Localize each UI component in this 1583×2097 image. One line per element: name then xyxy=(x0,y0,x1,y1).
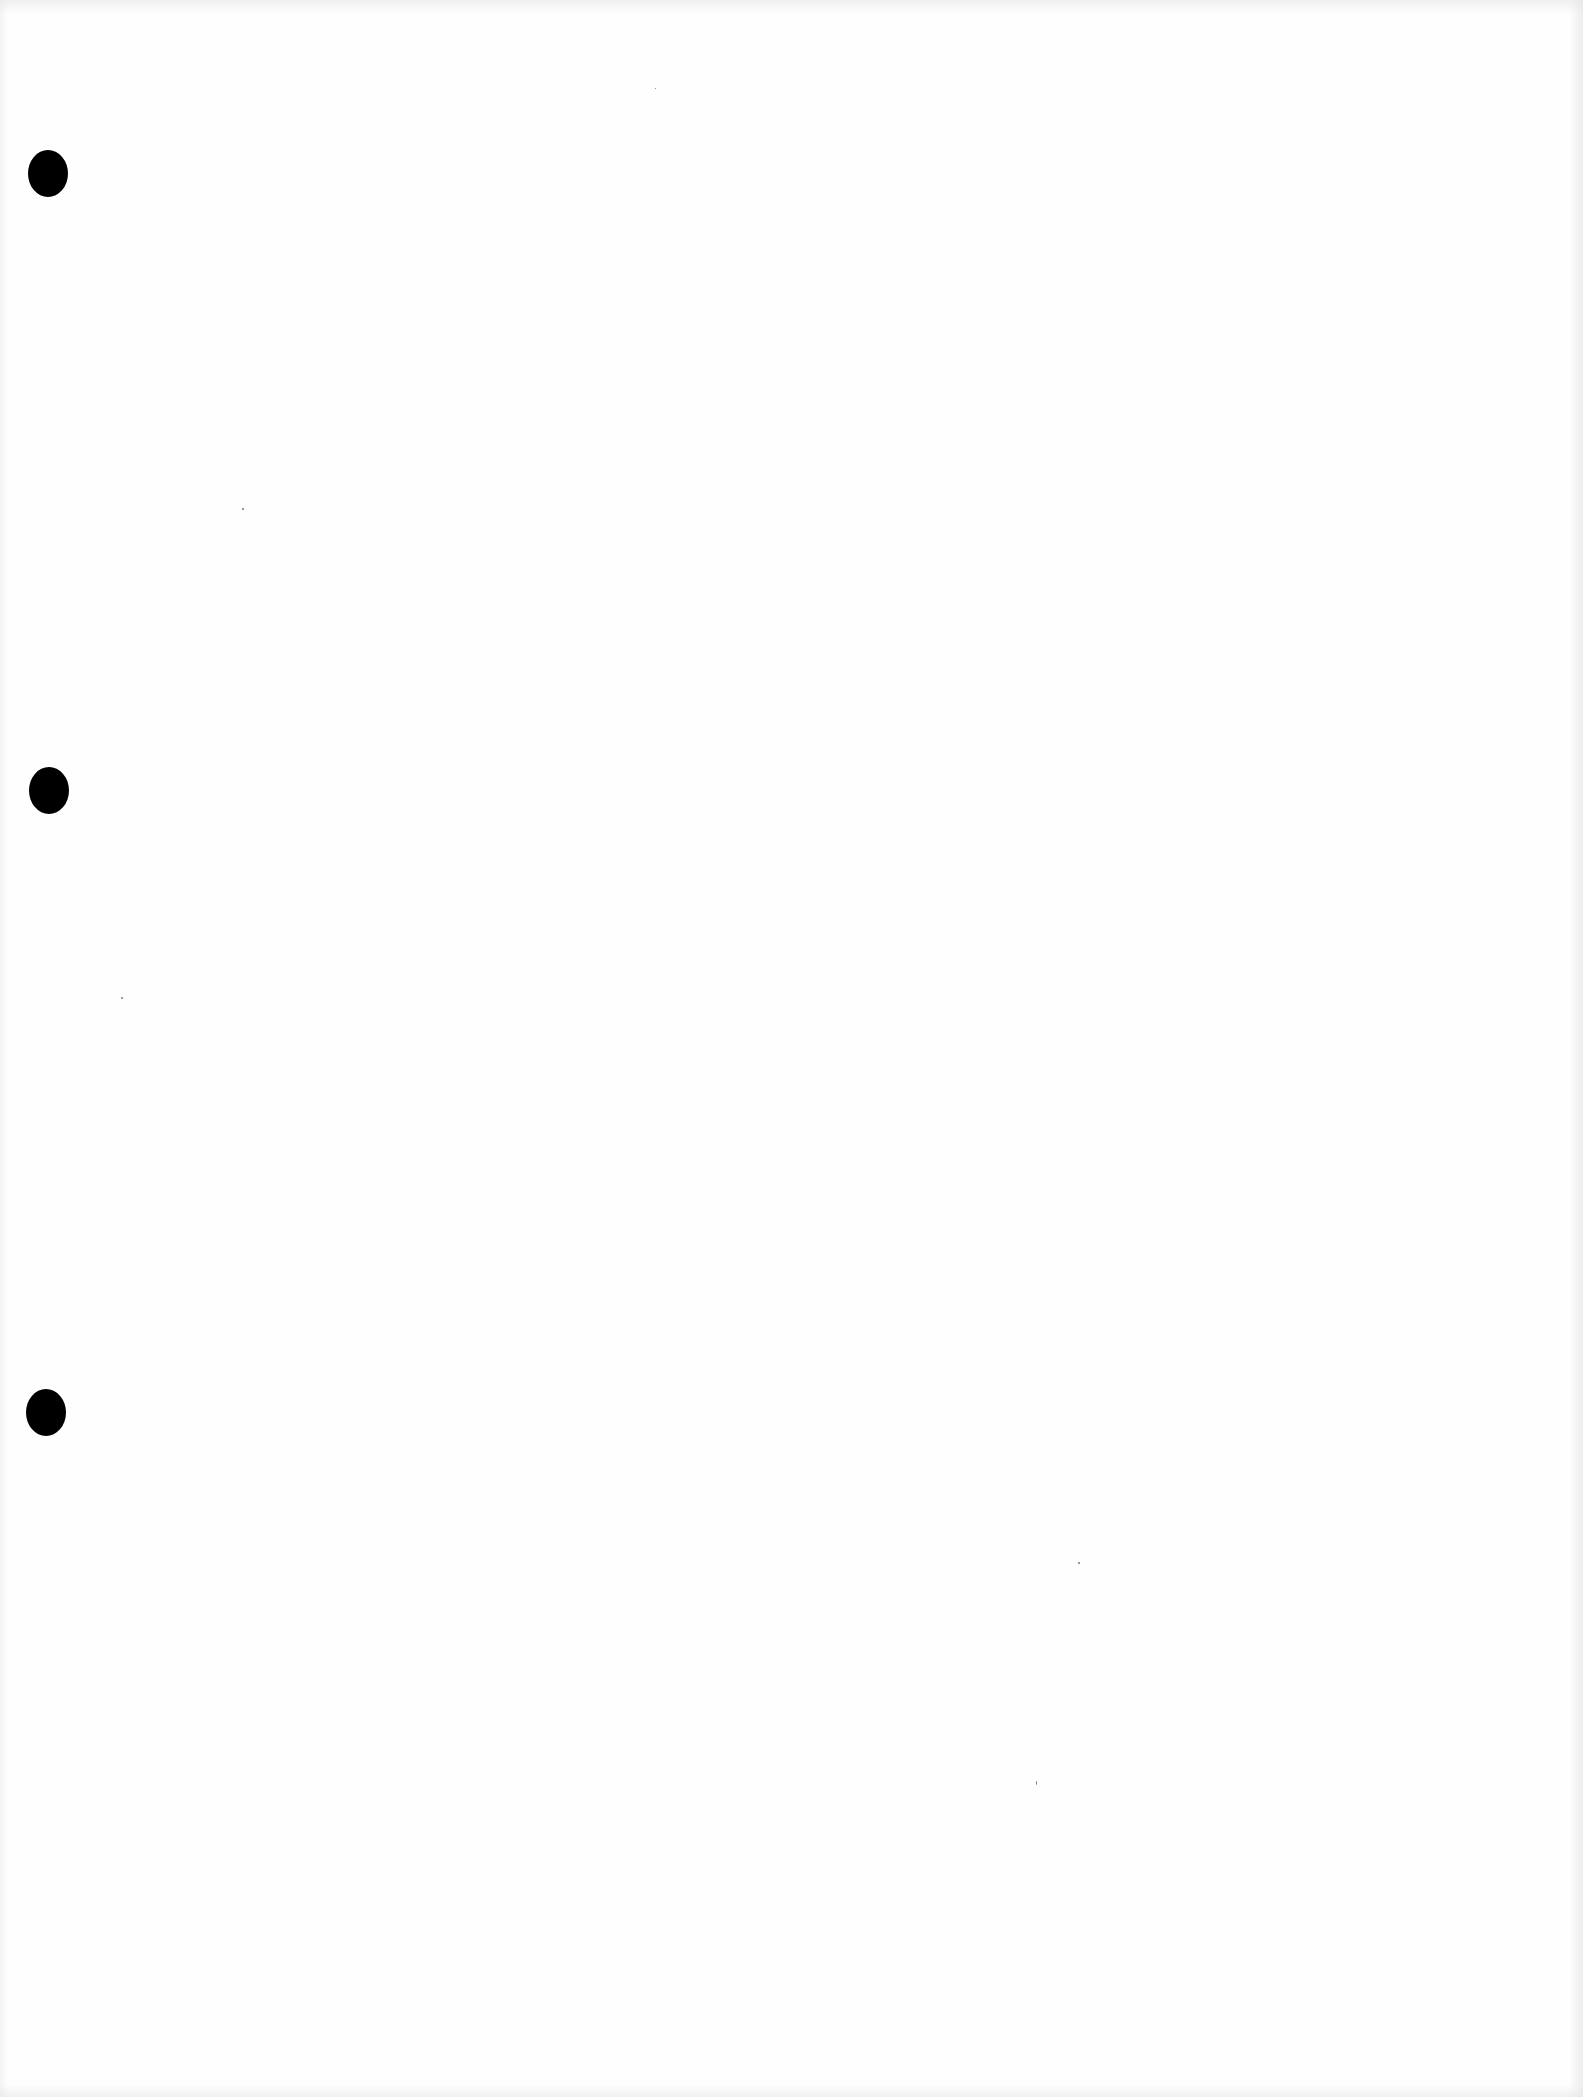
dust-speck xyxy=(121,997,123,999)
scanned-page xyxy=(0,0,1583,2097)
page-edge-bottom xyxy=(0,2085,1583,2097)
dust-speck xyxy=(1078,1562,1080,1564)
page-edge-right xyxy=(1569,0,1583,2097)
page-edge-left xyxy=(0,0,8,2097)
dust-speck xyxy=(242,508,244,510)
punch-hole-top xyxy=(28,150,68,197)
dust-speck xyxy=(655,88,656,89)
punch-hole-bottom xyxy=(26,1389,66,1436)
dust-speck xyxy=(1036,1781,1037,1785)
page-edge-top xyxy=(0,0,1583,14)
punch-hole-middle xyxy=(29,767,69,814)
